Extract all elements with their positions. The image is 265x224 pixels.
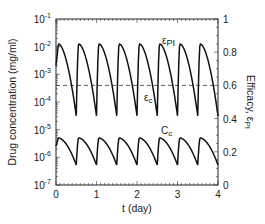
y-tick-label: 10-2 — [34, 40, 51, 53]
y-tick-label: 10-5 — [34, 123, 51, 136]
x-tick-label: 0 — [53, 189, 59, 200]
chart: 10-710-610-510-410-310-210-1 00.20.40.60… — [0, 0, 265, 224]
series-label-epi: εPI — [162, 35, 175, 48]
x-tick-label: 2 — [134, 189, 140, 200]
y-right-tick-label: 0.6 — [223, 80, 237, 91]
x-axis-labels: 01234 — [53, 189, 221, 200]
y-tick-label: 10-6 — [34, 150, 51, 163]
y-right-tick-label: 1 — [223, 14, 229, 25]
y-tick-label: 10-7 — [34, 178, 51, 191]
x-axis-title: t (day) — [122, 202, 152, 214]
y-right-tick-label: 0.2 — [223, 147, 237, 158]
y-tick-label: 10-3 — [34, 67, 51, 80]
x-tick-label: 1 — [94, 189, 100, 200]
right-title-sub: PI — [243, 121, 252, 129]
y-right-tick-label: 0.8 — [223, 47, 237, 58]
svg-text:Efficacy, εPI: Efficacy, εPI — [243, 75, 257, 129]
y-axis-right-title: Efficacy, εPI — [243, 75, 257, 129]
efficacy-pi-curve — [56, 44, 218, 116]
x-tick-label: 4 — [215, 189, 221, 200]
series-label-cc: Cc — [161, 125, 172, 138]
x-tick-label: 3 — [175, 189, 181, 200]
y-tick-label: 10-1 — [34, 12, 51, 25]
y-tick-label: 10-4 — [34, 95, 51, 108]
series-label-ec: εc — [144, 92, 152, 105]
concentration-cc-curve — [56, 138, 218, 165]
right-title-main: Efficacy, ε — [245, 75, 257, 122]
y-right-tick-label: 0.4 — [223, 114, 237, 125]
y-axis-right-labels: 00.20.40.60.81 — [223, 14, 237, 191]
y-right-tick-label: 0 — [223, 180, 229, 191]
y-axis-left-labels: 10-710-610-510-410-310-210-1 — [34, 12, 51, 191]
y-axis-left-title: Drug concentration (mg/ml) — [6, 38, 18, 165]
